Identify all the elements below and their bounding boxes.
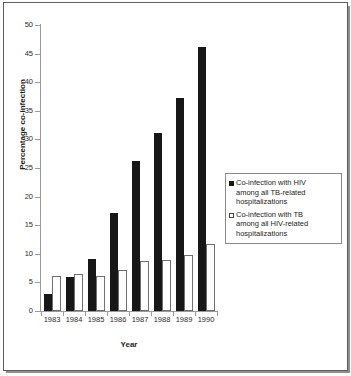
y-axis-tick-label: 50 (7, 21, 33, 29)
bar-series-hiv (66, 277, 74, 311)
legend-entry-hiv-label: Co-infection with HIVamong all TB-relate… (236, 178, 306, 207)
bar-series-hiv (110, 213, 118, 311)
y-axis-tick-label: 45 (7, 50, 33, 58)
x-axis-tick-label: 1986 (106, 315, 130, 325)
bar-series-tb (96, 276, 105, 311)
legend-swatch-open-square-icon (229, 213, 234, 218)
chart-border: 05101520253035404550 1983198419851986198… (3, 2, 348, 371)
bar-series-tb (74, 274, 83, 311)
bar-series-hiv (154, 133, 162, 311)
frame-shadow-right (348, 6, 350, 372)
y-axis-title: Percentage co-infection (18, 65, 27, 185)
y-axis-tick-labels: 05101520253035404550 (4, 3, 33, 376)
figure-frame: 05101520253035404550 1983198419851986198… (0, 0, 351, 376)
legend-entry-tb: Co-infection with TBamong all HIV-relate… (229, 210, 338, 239)
bar-series-tb (162, 260, 171, 311)
bar-series-hiv (44, 294, 52, 311)
y-axis-tick-label: 20 (7, 193, 33, 201)
bar-series-tb (184, 255, 193, 311)
legend-entry-tb-label: Co-infection with TBamong all HIV-relate… (236, 210, 308, 239)
bar-series-tb (52, 276, 61, 311)
x-axis-tick-label: 1983 (40, 315, 64, 325)
frame-shadow-bottom (6, 371, 350, 373)
chart-legend: Co-infection with HIVamong all TB-relate… (225, 173, 342, 244)
x-axis-tick-label: 1987 (128, 315, 152, 325)
y-axis-tick-label: 15 (7, 221, 33, 229)
x-axis-tick-label: 1989 (172, 315, 196, 325)
bar-series-tb (206, 244, 215, 311)
y-axis-tick-label: 10 (7, 250, 33, 258)
x-axis-tick-label: 1984 (62, 315, 86, 325)
bar-series-hiv (132, 161, 140, 311)
bar-series-tb (118, 270, 127, 311)
y-axis-tick-label: 5 (7, 278, 33, 286)
bar-series-tb (140, 261, 149, 311)
x-axis-tick-label: 1988 (150, 315, 174, 325)
x-axis-tick-label: 1985 (84, 315, 108, 325)
x-axis-title: Year (41, 340, 217, 349)
legend-swatch-filled-square-icon (229, 181, 234, 186)
legend-entry-hiv: Co-infection with HIVamong all TB-relate… (229, 178, 338, 207)
bar-series-hiv (88, 259, 96, 311)
bar-series-hiv (198, 47, 206, 311)
plot-area (41, 25, 217, 311)
x-axis-tick-label: 1990 (194, 315, 218, 325)
y-axis-tick-label: 0 (7, 307, 33, 315)
bar-series-hiv (176, 98, 184, 311)
